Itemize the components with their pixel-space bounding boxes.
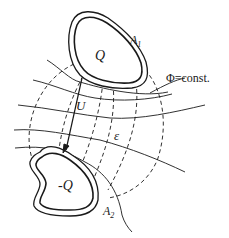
permittivity-label: ε <box>114 128 120 143</box>
conductor-a1 <box>69 12 148 89</box>
potential-label: Φ=const. <box>166 71 210 85</box>
capacitor-diagram: Q A1 Φ=const. U ε -Q A2 <box>0 0 229 238</box>
voltage-label: U <box>76 98 87 113</box>
conductor-a1-label: A1 <box>129 33 141 49</box>
charge-q-label: Q <box>95 48 105 63</box>
conductor-a2-label: A2 <box>102 204 114 220</box>
voltage-arrow <box>63 78 82 153</box>
charge-neg-q-label: -Q <box>58 178 73 193</box>
